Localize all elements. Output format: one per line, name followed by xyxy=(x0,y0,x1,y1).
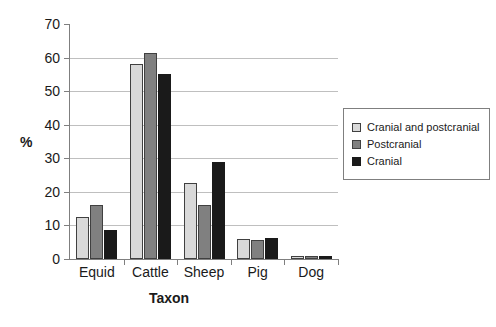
y-tick-label: 70 xyxy=(36,17,60,31)
legend-swatch-icon xyxy=(352,157,361,166)
bar xyxy=(251,240,264,259)
y-tick-label: 50 xyxy=(36,84,60,98)
bar xyxy=(104,230,117,259)
y-tick-label: 60 xyxy=(36,51,60,65)
bar xyxy=(184,183,197,259)
x-tick-label: Dog xyxy=(284,264,338,280)
x-tick xyxy=(338,259,339,265)
legend: Cranial and postcranial Postcranial Cran… xyxy=(343,108,490,180)
legend-label: Cranial and postcranial xyxy=(367,121,480,133)
bar xyxy=(237,239,250,259)
legend-swatch-icon xyxy=(352,140,361,149)
gridline xyxy=(70,91,338,92)
bar-chart: 010203040506070 EquidCattleSheepPigDog %… xyxy=(0,0,496,327)
x-tick-label: Pig xyxy=(231,264,285,280)
legend-item: Postcranial xyxy=(352,138,481,150)
y-tick-label: 40 xyxy=(36,118,60,132)
y-tick xyxy=(64,125,70,126)
y-tick xyxy=(64,91,70,92)
y-tick-label: 20 xyxy=(36,185,60,199)
gridline xyxy=(70,158,338,159)
y-tick xyxy=(64,225,70,226)
y-tick xyxy=(64,158,70,159)
x-axis-title: Taxon xyxy=(0,290,338,306)
y-tick-label: 0 xyxy=(36,252,60,266)
bar xyxy=(158,74,171,259)
legend-label: Postcranial xyxy=(367,138,421,150)
legend-label: Cranial xyxy=(367,155,402,167)
y-axis-tick-labels: 010203040506070 xyxy=(12,0,60,327)
y-axis-title: % xyxy=(20,134,32,150)
bar xyxy=(76,217,89,259)
y-tick xyxy=(64,24,70,25)
y-tick xyxy=(64,259,70,260)
y-tick xyxy=(64,58,70,59)
gridline xyxy=(70,58,338,59)
y-tick-label: 10 xyxy=(36,218,60,232)
legend-item: Cranial and postcranial xyxy=(352,121,481,133)
y-tick-label: 30 xyxy=(36,151,60,165)
bar xyxy=(144,53,157,259)
bar xyxy=(198,205,211,259)
legend-swatch-icon xyxy=(352,123,361,132)
x-tick-label: Cattle xyxy=(124,264,178,280)
gridline xyxy=(70,125,338,126)
x-tick-label: Sheep xyxy=(177,264,231,280)
bar xyxy=(265,238,278,259)
x-axis-line xyxy=(69,259,339,260)
bar xyxy=(90,205,103,259)
y-tick xyxy=(64,192,70,193)
plot-area xyxy=(70,24,338,259)
bar xyxy=(130,64,143,259)
x-tick-label: Equid xyxy=(70,264,124,280)
bar xyxy=(212,162,225,259)
gridline xyxy=(70,192,338,193)
legend-item: Cranial xyxy=(352,155,481,167)
